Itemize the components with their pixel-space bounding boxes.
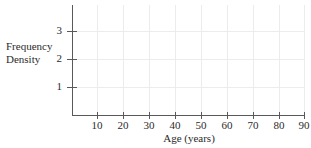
gridline-vertical	[253, 5, 254, 115]
gridline-horizontal	[73, 87, 305, 88]
x-axis-tick-label: 70	[241, 120, 265, 131]
x-axis-tick	[253, 112, 254, 119]
x-axis-tick-label: 60	[215, 120, 239, 131]
x-axis-tick	[97, 112, 98, 119]
x-axis-tick-label: 30	[137, 120, 161, 131]
y-axis-tick-label: 1	[50, 81, 62, 92]
x-axis-tick	[227, 112, 228, 119]
y-axis-title: Frequency Density	[6, 40, 64, 66]
gridline-vertical	[201, 5, 202, 115]
y-axis-tick-label: 3	[50, 25, 62, 36]
gridline-vertical	[304, 5, 305, 115]
plot-area	[73, 5, 305, 115]
x-axis-tick	[279, 112, 280, 119]
x-axis-tick-label: 80	[267, 120, 291, 131]
gridline-horizontal	[73, 59, 305, 60]
x-axis-title: Age (years)	[73, 132, 305, 144]
x-axis-tick	[123, 112, 124, 119]
y-axis-line	[72, 5, 73, 116]
x-axis-tick	[175, 112, 176, 119]
x-axis-tick-label: 20	[111, 120, 135, 131]
x-axis-tick-label: 90	[292, 120, 311, 131]
x-axis-tick-label: 40	[163, 120, 187, 131]
y-axis-tick	[67, 87, 77, 88]
y-axis-title-line-2: Density	[6, 53, 64, 66]
x-axis-line	[72, 115, 305, 116]
y-axis-title-line-1: Frequency	[6, 40, 64, 53]
gridline-vertical	[227, 5, 228, 115]
x-axis-tick	[201, 112, 202, 119]
y-axis-tick	[67, 31, 77, 32]
gridline-horizontal	[73, 31, 305, 32]
y-axis-tick	[67, 59, 77, 60]
gridline-vertical	[97, 5, 98, 115]
x-axis-tick	[149, 112, 150, 119]
x-axis-tick-label: 10	[85, 120, 109, 131]
gridline-vertical	[149, 5, 150, 115]
gridline-vertical	[279, 5, 280, 115]
x-axis-tick-label: 50	[189, 120, 213, 131]
x-axis-tick	[304, 112, 305, 119]
frequency-density-chart: 3 2 1 10 20 30 40 50 60 70 80 90 Frequen…	[0, 0, 311, 148]
gridline-vertical	[175, 5, 176, 115]
gridline-vertical	[123, 5, 124, 115]
